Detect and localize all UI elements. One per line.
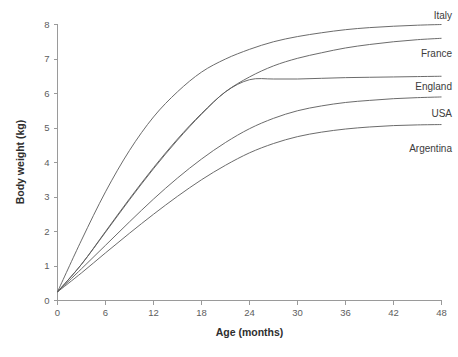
series-label-england: England [415,81,452,92]
y-tick-label: 5 [44,122,49,133]
series-line-france [58,38,442,292]
y-tick-label: 4 [44,157,49,168]
y-tick-label: 3 [44,191,49,202]
x-tick-label: 24 [244,307,255,318]
series-label-italy: Italy [434,10,452,21]
y-axis-ticks: 012345678 [44,19,57,306]
series-label-france: France [421,48,453,59]
series-label-usa: USA [431,108,452,119]
y-tick-label: 8 [44,19,49,30]
series-lines [58,25,442,292]
y-tick-label: 1 [44,260,49,271]
x-axis-ticks: 0612182430364248 [55,301,447,318]
series-line-england [58,76,442,292]
x-tick-label: 42 [388,307,399,318]
x-tick-label: 0 [55,307,60,318]
x-tick-label: 6 [103,307,108,318]
series-line-argentina [58,125,442,292]
x-tick-label: 18 [196,307,207,318]
x-tick-label: 48 [436,307,447,318]
series-label-argentina: Argentina [409,143,452,154]
y-axis-title: Body weight (kg) [14,120,26,205]
series-end-labels: ItalyFranceEnglandUSAArgentina [409,10,452,154]
chart-svg: 012345678 0612182430364248 ItalyFranceEn… [0,0,458,357]
growth-curve-chart: 012345678 0612182430364248 ItalyFranceEn… [0,0,458,357]
y-tick-label: 6 [44,88,49,99]
x-axis-title: Age (months) [216,326,284,338]
y-tick-label: 7 [44,53,49,64]
x-tick-label: 12 [148,307,159,318]
y-tick-label: 2 [44,226,49,237]
y-tick-label: 0 [44,295,49,306]
series-line-italy [58,25,442,292]
x-tick-label: 30 [292,307,303,318]
x-tick-label: 36 [340,307,351,318]
